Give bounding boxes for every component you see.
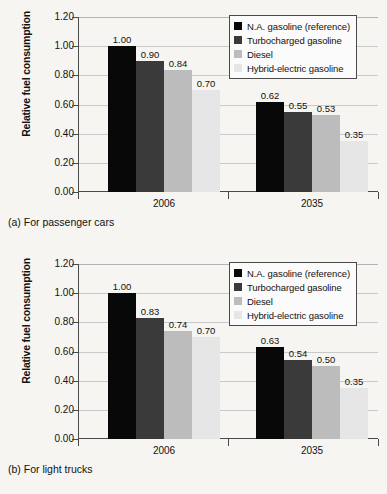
legend-item[interactable]: N.A. gasoline (reference)	[234, 266, 350, 280]
legend-label: N.A. gasoline (reference)	[247, 268, 350, 279]
bar-value-label: 0.35	[340, 129, 368, 140]
x-axis-category-label-2006: 2006	[129, 198, 199, 209]
y-axis-tick-label: 0.60	[28, 346, 74, 357]
bar-value-label: 0.70	[192, 325, 220, 336]
chart-legend: N.A. gasoline (reference)Turbocharged ga…	[229, 262, 357, 326]
bar-value-label: 0.35	[340, 376, 368, 387]
legend-label: Diesel	[247, 296, 273, 307]
bar-light-trucks-2035-series0	[256, 347, 284, 439]
x-axis-category-label-2006: 2006	[129, 445, 199, 456]
legend-label: N.A. gasoline (reference)	[247, 21, 350, 32]
bar-value-label: 0.63	[256, 335, 284, 346]
legend-label: Turbocharged gasoline	[247, 282, 342, 293]
legend-label: Turbocharged gasoline	[247, 35, 342, 46]
bar-passenger-cars-2006-series1	[136, 61, 164, 192]
bar-passenger-cars-2006-series0	[108, 46, 136, 192]
bar-light-trucks-2006-series3	[192, 337, 220, 439]
bar-passenger-cars-2035-series3	[340, 141, 368, 192]
x-axis-tick-mark	[228, 439, 229, 446]
bar-light-trucks-2006-series1	[136, 318, 164, 439]
legend-item[interactable]: N.A. gasoline (reference)	[234, 19, 350, 33]
bar-passenger-cars-2006-series2	[164, 70, 192, 193]
y-axis-tick-label: 0.20	[28, 157, 74, 168]
bar-value-label: 0.83	[136, 306, 164, 317]
bar-passenger-cars-2006-series3	[192, 90, 220, 192]
y-axis-tick-label: 1.00	[28, 40, 74, 51]
chart-legend: N.A. gasoline (reference)Turbocharged ga…	[229, 15, 357, 79]
x-axis-tick-mark	[228, 192, 229, 199]
y-axis-tick-label: 1.00	[28, 287, 74, 298]
legend-swatch-icon	[234, 297, 242, 305]
legend-swatch-icon	[234, 64, 242, 72]
bar-value-label: 0.62	[256, 90, 284, 101]
x-axis-category-label-2035: 2035	[277, 198, 347, 209]
x-axis-tick-mark	[78, 439, 79, 446]
legend-swatch-icon	[234, 283, 242, 291]
legend-label: Hybrid-electric gasoline	[247, 310, 343, 321]
y-axis-tick-label: 1.20	[28, 258, 74, 269]
bar-light-trucks-2035-series1	[284, 360, 312, 439]
legend-item[interactable]: Turbocharged gasoline	[234, 33, 350, 47]
legend-swatch-icon	[234, 311, 242, 319]
bar-passenger-cars-2035-series2	[312, 115, 340, 192]
y-axis-tick-label: 0.40	[28, 128, 74, 139]
legend-item[interactable]: Diesel	[234, 47, 350, 61]
bar-light-trucks-2006-series0	[108, 293, 136, 439]
legend-swatch-icon	[234, 22, 242, 30]
y-axis-tick-label: 0.20	[28, 404, 74, 415]
x-axis-tick-mark	[378, 439, 379, 446]
y-axis-tick-label: 0.80	[28, 69, 74, 80]
bar-value-label: 0.50	[312, 354, 340, 365]
legend-swatch-icon	[234, 36, 242, 44]
y-axis-tick-label: 0.80	[28, 316, 74, 327]
bar-value-label: 0.84	[164, 58, 192, 69]
figure-caption: (b) For light trucks	[8, 463, 93, 475]
legend-item[interactable]: Diesel	[234, 294, 350, 308]
bar-chart-passenger-cars: Relative fuel consumption0.000.200.400.6…	[0, 0, 387, 212]
bar-light-trucks-2035-series3	[340, 388, 368, 439]
bar-value-label: 1.00	[108, 34, 136, 45]
legend-swatch-icon	[234, 269, 242, 277]
bar-value-label: 0.54	[284, 348, 312, 359]
y-axis-tick-label: 0.00	[28, 433, 74, 444]
legend-swatch-icon	[234, 50, 242, 58]
figure-light-trucks: Relative fuel consumption0.000.200.400.6…	[0, 247, 387, 494]
y-axis-tick-label: 0.40	[28, 375, 74, 386]
legend-label: Hybrid-electric gasoline	[247, 63, 343, 74]
bar-chart-light-trucks: Relative fuel consumption0.000.200.400.6…	[0, 247, 387, 459]
x-axis-category-label-2035: 2035	[277, 445, 347, 456]
bar-value-label: 0.74	[164, 319, 192, 330]
x-axis-tick-mark	[378, 192, 379, 199]
bar-value-label: 0.55	[284, 100, 312, 111]
figure-passenger-cars: Relative fuel consumption0.000.200.400.6…	[0, 0, 387, 247]
legend-item[interactable]: Turbocharged gasoline	[234, 280, 350, 294]
bar-value-label: 0.70	[192, 78, 220, 89]
y-axis-tick-label: 0.60	[28, 99, 74, 110]
y-axis-tick-label: 1.20	[28, 11, 74, 22]
x-axis-tick-mark	[78, 192, 79, 199]
legend-item[interactable]: Hybrid-electric gasoline	[234, 308, 350, 322]
figure-caption: (a) For passenger cars	[8, 216, 114, 228]
legend-item[interactable]: Hybrid-electric gasoline	[234, 61, 350, 75]
bar-passenger-cars-2035-series1	[284, 112, 312, 192]
bar-passenger-cars-2035-series0	[256, 102, 284, 192]
bar-light-trucks-2006-series2	[164, 331, 192, 439]
legend-label: Diesel	[247, 49, 273, 60]
y-axis-tick-label: 0.00	[28, 186, 74, 197]
bar-value-label: 0.90	[136, 49, 164, 60]
bar-value-label: 0.53	[312, 103, 340, 114]
bar-light-trucks-2035-series2	[312, 366, 340, 439]
bar-value-label: 1.00	[108, 281, 136, 292]
